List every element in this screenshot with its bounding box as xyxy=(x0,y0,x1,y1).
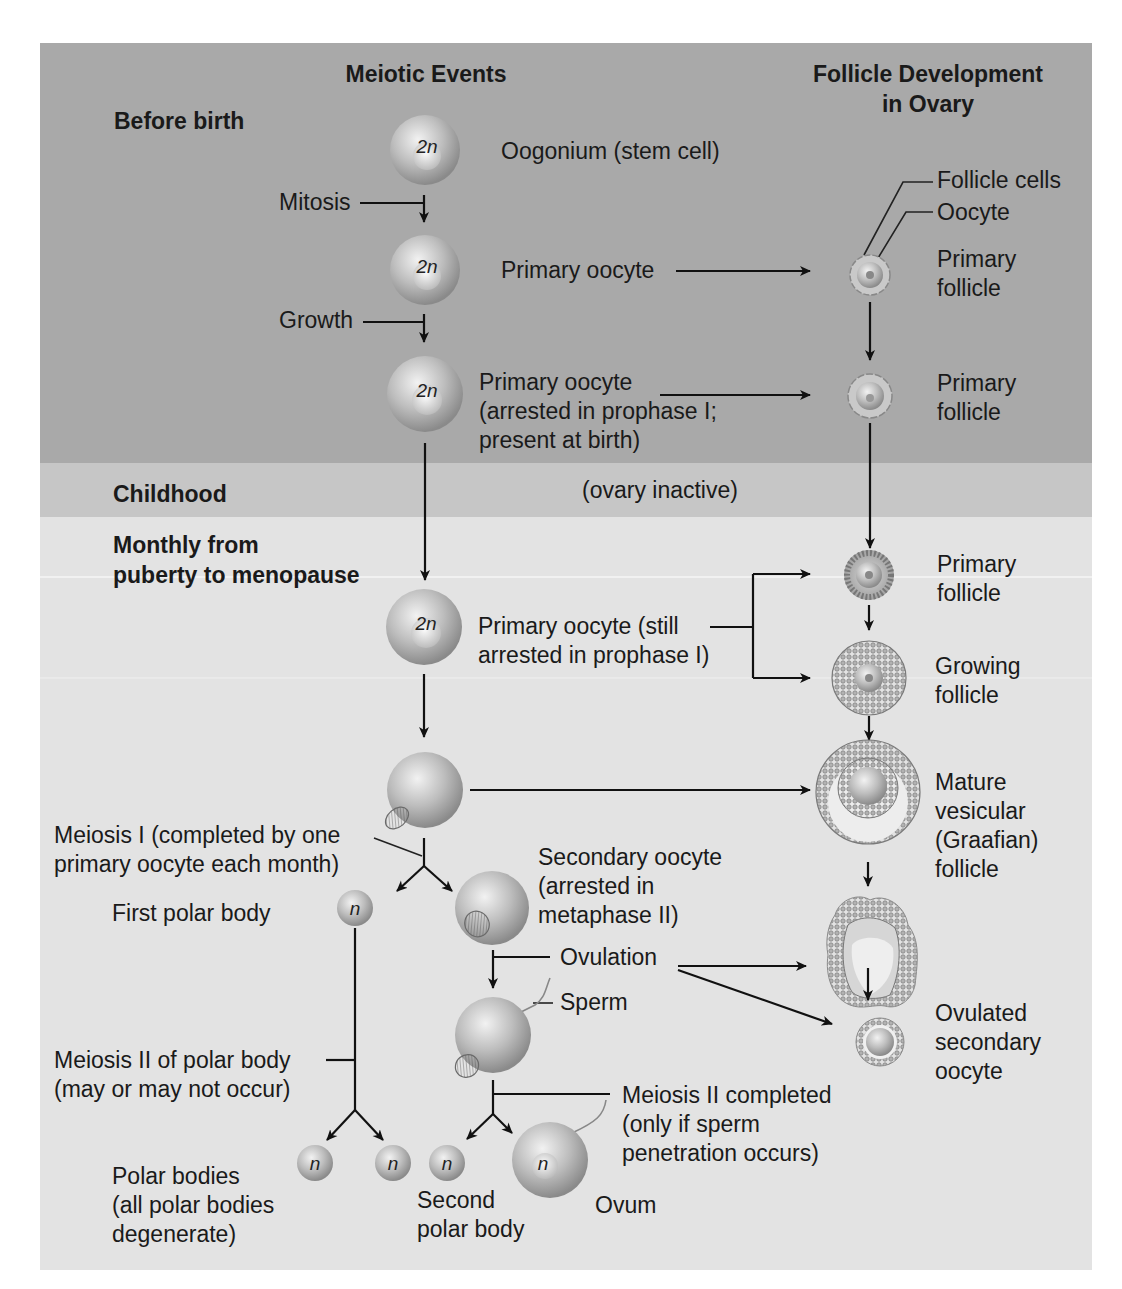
mature-graafian-follicle xyxy=(816,740,920,844)
stage-puberty-line1: Monthly from xyxy=(113,532,259,558)
label-mature-line4: follicle xyxy=(935,856,999,882)
arrested-primary-oocyte-cell: 2n xyxy=(387,356,463,432)
growing-follicle xyxy=(832,641,906,715)
svg-text:n: n xyxy=(442,1153,453,1174)
label-still-arrested-line2: arrested in prophase I) xyxy=(478,642,709,668)
label-secondary-line3: metaphase II) xyxy=(538,902,679,928)
label-follicle-cells: Follicle cells xyxy=(937,167,1061,193)
label-second-polar-line2: polar body xyxy=(417,1216,525,1242)
still-arrested-primary-oocyte-cell: 2n xyxy=(386,589,462,665)
label-mature-line1: Mature xyxy=(935,769,1007,795)
label-polar-bodies-line1: Polar bodies xyxy=(112,1163,240,1189)
stage-puberty-line2: puberty to menopause xyxy=(113,562,360,588)
primary-follicle-2 xyxy=(848,374,892,418)
svg-text:2n: 2n xyxy=(415,256,437,277)
svg-text:n: n xyxy=(350,898,361,919)
label-primary-follicle-1-line2: follicle xyxy=(937,275,1001,301)
label-meiosis1-line1: Meiosis I (completed by one xyxy=(54,822,340,848)
label-ovulation: Ovulation xyxy=(560,944,657,970)
label-second-polar-line1: Second xyxy=(417,1187,495,1213)
svg-text:2n: 2n xyxy=(415,380,437,401)
label-oogonium: Oogonium (stem cell) xyxy=(501,138,720,164)
label-first-polar-body: First polar body xyxy=(112,900,271,926)
label-oocyte: Oocyte xyxy=(937,199,1010,225)
header-follicle-development: Follicle Development xyxy=(813,61,1043,87)
label-still-arrested-line1: Primary oocyte (still xyxy=(478,613,679,639)
label-ovulated-line1: Ovulated xyxy=(935,1000,1027,1026)
ruptured-follicle xyxy=(827,897,917,1007)
label-secondary-line1: Secondary oocyte xyxy=(538,844,722,870)
ovulated-secondary-oocyte xyxy=(856,1018,904,1066)
header-in-ovary: in Ovary xyxy=(882,91,974,117)
label-mature-line2: vesicular xyxy=(935,798,1026,824)
label-secondary-line2: (arrested in xyxy=(538,873,654,899)
second-polar-body: n xyxy=(429,1145,465,1181)
svg-text:n: n xyxy=(310,1153,321,1174)
label-polar-bodies-line3: degenerate) xyxy=(112,1221,236,1247)
label-mature-line3: (Graafian) xyxy=(935,827,1039,853)
secondary-oocyte-cell xyxy=(455,871,529,945)
label-primary-follicle-2-line1: Primary xyxy=(937,370,1017,396)
label-ovulated-line2: secondary xyxy=(935,1029,1042,1055)
label-primary-follicle-2-line2: follicle xyxy=(937,399,1001,425)
primary-oocyte-cell: 2n xyxy=(390,235,460,305)
label-growing-line1: Growing xyxy=(935,653,1021,679)
label-arrested-line2: (arrested in prophase I; xyxy=(479,398,717,424)
label-ovum: Ovum xyxy=(595,1192,656,1218)
svg-text:n: n xyxy=(388,1153,399,1174)
label-meiosis2-completed-line2: (only if sperm xyxy=(622,1111,760,1137)
label-sperm: Sperm xyxy=(560,989,628,1015)
header-meiotic-events: Meiotic Events xyxy=(345,61,506,87)
label-ovulated-line3: oocyte xyxy=(935,1058,1003,1084)
svg-text:2n: 2n xyxy=(414,613,436,634)
stage-childhood: Childhood xyxy=(113,481,227,507)
oogonium-cell: 2n xyxy=(390,115,460,185)
label-ovary-inactive: (ovary inactive) xyxy=(582,477,738,503)
oogenesis-diagram: Meiotic Events Follicle Development in O… xyxy=(0,0,1122,1289)
stage-before-birth: Before birth xyxy=(114,108,244,134)
svg-text:2n: 2n xyxy=(415,136,437,157)
label-mitosis: Mitosis xyxy=(279,189,351,215)
label-meiosis2-completed-line1: Meiosis II completed xyxy=(622,1082,832,1108)
svg-text:n: n xyxy=(538,1153,549,1174)
label-primary-follicle-3-line1: Primary xyxy=(937,551,1017,577)
label-arrested-line1: Primary oocyte xyxy=(479,369,632,395)
label-polar-bodies-line2: (all polar bodies xyxy=(112,1192,274,1218)
label-growth: Growth xyxy=(279,307,353,333)
label-meiosis1-line2: primary oocyte each month) xyxy=(54,851,339,877)
polar-body-2: n xyxy=(375,1145,411,1181)
label-growing-line2: follicle xyxy=(935,682,999,708)
label-primary-follicle-1-line1: Primary xyxy=(937,246,1017,272)
label-primary-follicle-3-line2: follicle xyxy=(937,580,1001,606)
polar-body-1: n xyxy=(297,1145,333,1181)
label-arrested-line3: present at birth) xyxy=(479,427,640,453)
label-meiosis2-polar-line1: Meiosis II of polar body xyxy=(54,1047,291,1073)
ovum-cell: n xyxy=(512,1122,588,1198)
first-polar-body-cell: n xyxy=(337,890,373,926)
label-primary-oocyte: Primary oocyte xyxy=(501,257,654,283)
primary-follicle-1 xyxy=(850,255,890,295)
label-meiosis2-polar-line2: (may or may not occur) xyxy=(54,1076,290,1102)
label-meiosis2-completed-line3: penetration occurs) xyxy=(622,1140,819,1166)
primary-follicle-3 xyxy=(844,550,894,600)
